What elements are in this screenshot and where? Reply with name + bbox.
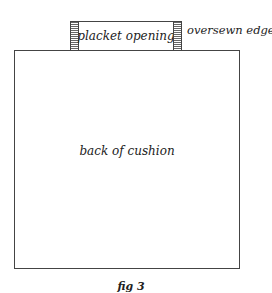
placket-opening-label: placket opening xyxy=(71,29,181,43)
cushion-back: back of cushion xyxy=(14,50,240,269)
placket-opening: placket opening xyxy=(70,21,182,50)
cushion-back-label: back of cushion xyxy=(15,144,239,158)
oversewn-edges-label: oversewn edges xyxy=(187,23,272,37)
figure-caption: fig 3 xyxy=(0,280,262,293)
oversewn-edge-right xyxy=(173,22,181,50)
